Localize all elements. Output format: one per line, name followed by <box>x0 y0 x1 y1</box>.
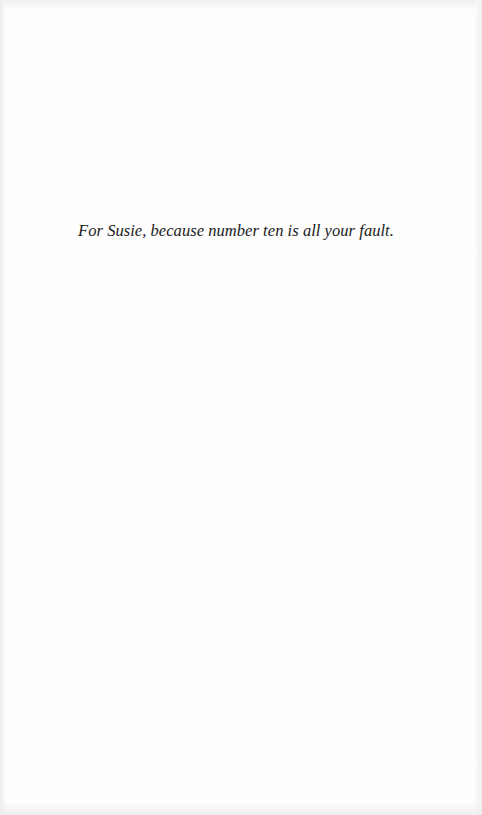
scan-edge-left <box>0 0 6 815</box>
scan-edge-bottom <box>0 801 482 815</box>
book-page: For Susie, because number ten is all you… <box>0 0 482 815</box>
dedication-text: For Susie, because number ten is all you… <box>0 221 472 241</box>
scan-edge-right <box>474 0 482 815</box>
scan-edge-top <box>0 0 482 10</box>
